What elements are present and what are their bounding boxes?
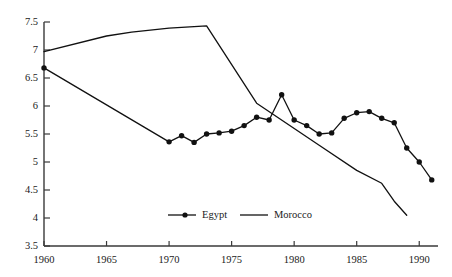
egypt-data-point [417,159,422,164]
egypt-data-point [179,133,184,138]
egypt-data-point [266,117,271,122]
chart-plot-area [0,0,452,277]
egypt-data-point [341,116,346,121]
y-axis-tick-label: 7 [0,45,38,56]
egypt-data-point [229,129,234,134]
y-axis-tick-label: 7.5 [0,17,38,28]
egypt-data-point [241,123,246,128]
egypt-data-point [379,116,384,121]
egypt-data-point [166,139,171,144]
egypt-data-point [329,130,334,135]
y-axis-tick-label: 5.5 [0,129,38,140]
y-axis-tick-label: 4.5 [0,185,38,196]
y-axis-tick-label: 6.5 [0,73,38,84]
x-axis-tick-label: 1990 [409,255,430,266]
egypt-line [44,68,432,180]
egypt-data-point [404,145,409,150]
y-axis-tick-label: 5 [0,157,38,168]
x-axis-tick-label: 1980 [284,255,305,266]
egypt-data-point [216,130,221,135]
egypt-data-point [354,110,359,115]
x-axis-ticks [44,241,419,246]
morocco-line [44,26,407,215]
egypt-data-point [291,117,296,122]
egypt-data-point [429,177,434,182]
egypt-data-point [204,131,209,136]
x-axis-tick-label: 1960 [34,255,55,266]
egypt-data-point [316,131,321,136]
legend-label-morocco: Morocco [274,210,312,221]
y-axis-ticks [44,22,50,246]
legend-egypt-marker-swatch [182,212,187,217]
egypt-data-point [392,120,397,125]
legend-label-egypt: Egypt [202,210,227,221]
egypt-data-point [191,140,196,145]
x-axis-tick-label: 1985 [346,255,367,266]
egypt-markers [41,65,434,182]
egypt-data-point [254,115,259,120]
x-axis-tick-label: 1970 [159,255,180,266]
egypt-data-point [279,92,284,97]
y-axis-tick-label: 6 [0,101,38,112]
egypt-data-point [367,109,372,114]
axes [44,22,438,246]
egypt-data-point [41,65,46,70]
x-axis-tick-label: 1965 [96,255,117,266]
chart-container: 3.544.555.566.577.5 19601965197019751980… [0,0,452,277]
data-series-group [41,26,434,215]
x-axis-tick-label: 1975 [221,255,242,266]
egypt-data-point [304,123,309,128]
y-axis-tick-label: 4 [0,213,38,224]
y-axis-tick-label: 3.5 [0,241,38,252]
